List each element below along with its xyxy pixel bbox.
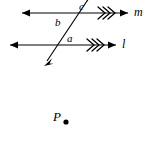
line-l-arrowhead-right [108,42,116,49]
line-l [10,39,116,51]
transversal-arrowhead-bottom [44,59,54,67]
geometry-canvas [0,0,152,150]
angle-label-c: c [79,1,84,12]
line-label-m: m [134,6,143,18]
line-label-l: l [122,38,125,50]
line-m-arrowhead-left [22,10,30,17]
angle-label-a: a [67,33,73,44]
line-l-arrowhead-left [10,42,18,49]
point-label-P: P [53,110,61,123]
geometry-diagram: c b a m l P [0,0,152,150]
line-m-arrowhead-right [120,10,128,17]
point-P-dot [63,119,68,124]
angle-label-b: b [55,17,61,28]
line-m [22,7,128,19]
